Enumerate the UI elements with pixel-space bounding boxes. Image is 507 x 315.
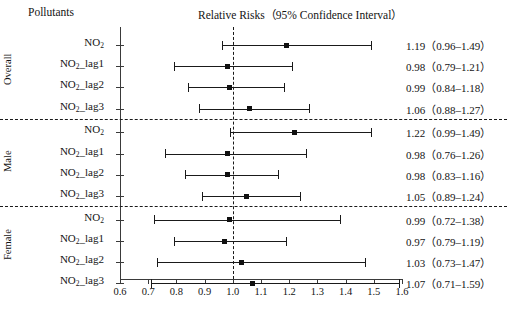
pollutant-label-text: NO2 xyxy=(0,36,104,48)
confidence-interval-bar xyxy=(188,87,284,88)
confidence-interval-bar xyxy=(154,220,340,221)
point-estimate-marker xyxy=(239,260,244,265)
ci-lower-cap xyxy=(154,215,155,224)
ci-upper-cap xyxy=(340,215,341,224)
y-axis-tick xyxy=(116,154,124,155)
pollutants-column-header: Pollutants xyxy=(28,6,74,18)
ci-upper-cap xyxy=(292,62,293,71)
pollutant-label-text: NO2 xyxy=(0,211,104,223)
ci-lower-cap xyxy=(230,128,231,137)
ci-lower-cap xyxy=(174,62,175,71)
group-label-text: Male xyxy=(0,156,17,172)
pollutant-label: NO2 xyxy=(0,211,104,229)
confidence-interval-bar xyxy=(230,132,371,133)
ci-lower-cap xyxy=(174,237,175,246)
y-axis-tick xyxy=(116,132,124,133)
ci-lower-cap xyxy=(202,192,203,201)
y-axis-tick xyxy=(116,241,124,242)
estimate-value-text: 1.19（0.96–1.49） xyxy=(406,37,506,53)
ci-upper-cap xyxy=(284,83,285,92)
y-axis-tick xyxy=(116,87,124,88)
point-estimate-marker xyxy=(284,43,289,48)
point-estimate-marker xyxy=(222,239,227,244)
confidence-interval-bar xyxy=(174,241,287,242)
estimate-value-text: 1.03（0.73–1.47） xyxy=(406,254,506,270)
point-estimate-marker xyxy=(244,194,249,199)
ci-upper-cap xyxy=(300,192,301,201)
pollutant-label-text: NO2_lag3 xyxy=(0,187,104,199)
point-estimate-marker xyxy=(225,64,230,69)
y-axis-tick xyxy=(116,109,124,110)
ci-lower-cap xyxy=(151,279,152,288)
ci-upper-cap xyxy=(399,279,400,288)
x-axis-tick xyxy=(148,279,149,284)
ci-upper-cap xyxy=(306,149,307,158)
ci-lower-cap xyxy=(157,258,158,267)
group-label-female: Female xyxy=(0,243,16,261)
ci-upper-cap xyxy=(371,41,372,50)
point-estimate-marker xyxy=(250,281,255,286)
y-axis-tick xyxy=(116,66,124,67)
ci-lower-cap xyxy=(185,170,186,179)
ci-lower-cap xyxy=(222,41,223,50)
y-axis-tick xyxy=(116,175,124,176)
ci-lower-cap xyxy=(165,149,166,158)
confidence-interval-bar xyxy=(185,175,278,176)
y-axis-tick xyxy=(116,283,124,284)
y-axis-tick xyxy=(116,220,124,221)
group-separator xyxy=(0,119,507,120)
pollutant-label: NO2_lag3 xyxy=(0,100,104,118)
estimate-value-text: 0.98（0.76–1.26） xyxy=(406,146,506,162)
confidence-interval-bar xyxy=(199,109,309,110)
group-label-text: Female xyxy=(0,244,17,260)
confidence-interval-bar xyxy=(165,154,306,155)
relative-risks-header: Relative Risks（95% Confidence Interval） xyxy=(198,6,402,22)
confidence-interval-bar xyxy=(202,196,301,197)
estimate-value-text: 1.07（0.71–1.59） xyxy=(406,275,506,291)
pollutant-label: NO2_lag3 xyxy=(0,274,104,292)
ci-upper-cap xyxy=(365,258,366,267)
forest-plot-figure: Pollutants Relative Risks（95% Confidence… xyxy=(0,0,507,315)
group-label-overall: Overall xyxy=(0,68,16,86)
estimate-value-text: 0.98（0.83–1.16） xyxy=(406,167,506,183)
estimate-value-text: 0.97（0.79–1.19） xyxy=(406,233,506,249)
ci-upper-cap xyxy=(371,128,372,137)
estimate-value-text: 0.99（0.84–1.18） xyxy=(406,79,506,95)
pollutant-label-text: NO2_lag3 xyxy=(0,100,104,112)
ci-lower-cap xyxy=(199,104,200,113)
pollutant-label: NO2_lag3 xyxy=(0,187,104,205)
point-estimate-marker xyxy=(292,130,297,135)
point-estimate-marker xyxy=(227,85,232,90)
estimate-value-text: 1.06（0.88–1.27） xyxy=(406,101,506,117)
confidence-interval-bar xyxy=(222,45,371,46)
point-estimate-marker xyxy=(247,106,252,111)
point-estimate-marker xyxy=(225,151,230,156)
pollutant-label: NO2 xyxy=(0,36,104,54)
y-axis-tick xyxy=(116,196,124,197)
group-separator xyxy=(0,206,507,207)
y-axis-tick xyxy=(116,262,124,263)
ci-upper-cap xyxy=(286,237,287,246)
ci-lower-cap xyxy=(188,83,189,92)
confidence-interval-bar xyxy=(174,66,292,67)
estimate-value-text: 0.98（0.79–1.21） xyxy=(406,58,506,74)
group-label-text: Overall xyxy=(0,69,17,85)
ci-upper-cap xyxy=(309,104,310,113)
estimate-value-text: 1.22（0.99–1.49） xyxy=(406,124,506,140)
estimate-value-text: 1.05（0.89–1.24） xyxy=(406,188,506,204)
estimate-value-text: 0.99（0.72–1.38） xyxy=(406,212,506,228)
x-axis-tick xyxy=(402,279,403,284)
point-estimate-marker xyxy=(225,172,230,177)
pollutant-label: NO2 xyxy=(0,123,104,141)
pollutant-label-text: NO2 xyxy=(0,123,104,135)
pollutant-label-text: NO2_lag3 xyxy=(0,274,104,286)
group-label-male: Male xyxy=(0,155,16,173)
y-axis-tick xyxy=(116,45,124,46)
point-estimate-marker xyxy=(227,217,232,222)
confidence-interval-bar xyxy=(151,283,399,284)
confidence-interval-bar xyxy=(157,262,366,263)
ci-upper-cap xyxy=(278,170,279,179)
